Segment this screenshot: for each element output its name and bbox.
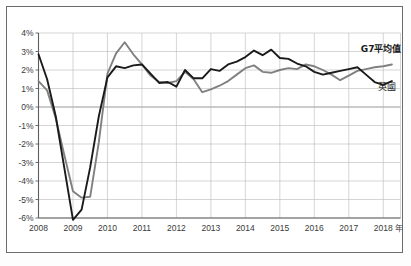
x-axis-tick-label: 2018	[374, 223, 393, 233]
x-axis-unit-label: 年	[395, 223, 403, 233]
x-axis-tick-label: 2010	[98, 223, 117, 233]
series-lines	[39, 42, 392, 220]
y-axis-tick-label: 2%	[21, 65, 34, 75]
gridlines	[39, 33, 401, 218]
x-axis-tick-label: 2013	[201, 223, 220, 233]
y-axis-tick-label: -6%	[18, 213, 34, 223]
y-axis-tick-label: 1%	[21, 84, 34, 94]
series-label-uk: 英國	[378, 81, 396, 92]
series-label-g7-average: G7平均值	[361, 43, 402, 54]
x-axis-unit-label: 年	[395, 223, 403, 233]
y-axis-tick-labels: 4%3%2%1%0%-1%-2%-3%-4%-5%-6%	[18, 28, 34, 223]
y-axis-tick-label: 4%	[21, 28, 34, 38]
x-axis-tick-label: 2017	[339, 223, 358, 233]
x-axis-tick-label: 2015	[270, 223, 289, 233]
x-axis-tick-label: 2016	[305, 223, 324, 233]
series-line-g7-average	[39, 42, 392, 197]
y-axis-tick-label: 3%	[21, 47, 34, 57]
x-axis-tick-label: 2014	[236, 223, 255, 233]
y-axis-tick-label: -3%	[18, 158, 34, 168]
y-axis-tick-label: -4%	[18, 176, 34, 186]
y-axis-tick-label: -2%	[18, 139, 34, 149]
x-axis-tick-label: 2011	[133, 223, 152, 233]
x-axis-tick-labels: 2008200920102011201220132014201520162017…	[29, 223, 393, 233]
line-chart: 4%3%2%1%0%-1%-2%-3%-4%-5%-6% 20082009201…	[0, 0, 411, 266]
x-axis-tick-label: 2008	[29, 223, 48, 233]
y-axis-tick-label: -1%	[18, 121, 34, 131]
y-axis-tick-label: 0%	[21, 102, 34, 112]
series-inline-labels: G7平均值英國	[361, 43, 402, 92]
x-axis-tick-label: 2009	[64, 223, 83, 233]
x-axis-tick-label: 2012	[167, 223, 186, 233]
chart-figure: 4%3%2%1%0%-1%-2%-3%-4%-5%-6% 20082009201…	[0, 0, 411, 266]
y-axis-tick-label: -5%	[18, 195, 34, 205]
